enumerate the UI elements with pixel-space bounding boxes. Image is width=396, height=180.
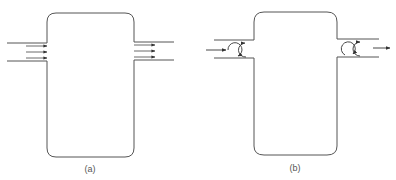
panel-a-label: (a) bbox=[75, 164, 105, 174]
panel-b bbox=[214, 12, 379, 155]
outlet-flow-b bbox=[341, 42, 390, 56]
diagram-canvas bbox=[0, 0, 396, 180]
tank-b-outline bbox=[254, 12, 337, 155]
inlet-flow-b bbox=[206, 43, 246, 57]
panel-a bbox=[7, 13, 174, 157]
outlet-arrows-a bbox=[134, 45, 155, 57]
panel-b-label: (b) bbox=[280, 163, 310, 173]
tank-a-outline bbox=[47, 13, 134, 157]
inlet-arrows-a bbox=[26, 46, 47, 58]
